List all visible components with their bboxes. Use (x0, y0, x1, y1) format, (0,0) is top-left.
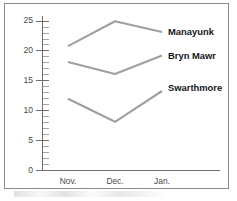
y-tick-label: 0 (28, 165, 33, 175)
figure-container: 25 20 15 10 5 0 Nov. Dec. Jan. Mana (0, 0, 237, 201)
series-label-bryn-mawr: Bryn Mawr (168, 50, 216, 61)
y-tick-label: 20 (23, 45, 33, 55)
x-tick-label-jan: Jan. (154, 176, 170, 186)
x-tick-label-nov: Nov. (60, 176, 77, 186)
y-minor-ticks (43, 27, 49, 165)
series-label-manayunk: Manayunk (168, 26, 215, 37)
series-direct-labels: Manayunk Bryn Mawr Swarthmore (168, 26, 222, 93)
line-chart-plot: 25 20 15 10 5 0 Nov. Dec. Jan. Mana (5, 4, 230, 190)
footer-smudge-artifact (14, 191, 164, 197)
chart-frame: 25 20 15 10 5 0 Nov. Dec. Jan. Mana (4, 3, 229, 189)
y-tick-label: 5 (28, 135, 33, 145)
y-tick-label: 25 (23, 15, 33, 25)
series-line-swarthmore (68, 91, 162, 122)
series-line-bryn-mawr (68, 56, 162, 75)
y-tick-label: 10 (23, 105, 33, 115)
series-lines (68, 21, 162, 122)
x-tick-labels: Nov. Dec. Jan. (60, 176, 170, 186)
x-tick-label-dec: Dec. (106, 176, 123, 186)
series-line-manayunk (68, 21, 162, 46)
axis-group (43, 16, 221, 171)
y-tick-label: 15 (23, 75, 33, 85)
y-tick-labels: 25 20 15 10 5 0 (23, 15, 33, 175)
series-label-swarthmore: Swarthmore (168, 82, 222, 93)
